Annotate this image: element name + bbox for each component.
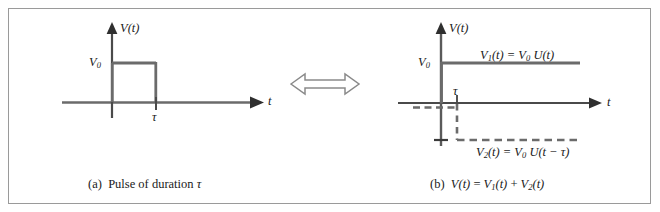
panel-a-plot <box>62 22 264 118</box>
panel-b-curve-v1-label-tail: U(t) <box>530 48 554 62</box>
panel-b-curve-v1-label: V1(t) = V0 U(t) <box>480 49 554 62</box>
panel-b-x-axis-label: t <box>607 96 610 109</box>
panel-b-curve-v1 <box>441 62 580 103</box>
panel-a-x-axis-label: t <box>268 95 271 108</box>
panel-a-amplitude-sub: 0 <box>97 60 101 70</box>
panel-b-curve-v2 <box>413 104 578 140</box>
panel-a-amplitude-label: V0 <box>89 56 101 69</box>
panel-b-tau-tick-label: τ <box>453 85 457 98</box>
double-headed-arrow-icon <box>291 74 359 94</box>
panel-a-caption-text: Pulse of duration <box>108 177 193 191</box>
panel-b-curve-v2-label-v: V <box>476 145 484 159</box>
panel-a-y-axis-arrowhead <box>107 22 118 34</box>
figure-container: V(t) t V0 τ (a) Pulse of duration τ V(t)… <box>0 0 660 212</box>
panel-b-amplitude-sub: 0 <box>426 60 430 70</box>
panel-b-curve-v2-label: V2(t) = V0 U(t − τ) <box>476 146 569 159</box>
panel-b-caption-index: (b) <box>430 177 445 191</box>
panel-b-caption-lhs: V(t) <box>451 177 470 191</box>
panel-a-x-axis <box>62 97 264 109</box>
panel-b-curve-v2-label-tail: U(t − τ) <box>526 145 569 159</box>
panel-b-amplitude-v: V <box>418 55 426 69</box>
panel-b-y-axis-arrowhead <box>436 22 447 34</box>
panel-a-caption-index: (a) <box>88 177 102 191</box>
panel-b-plot <box>398 22 602 146</box>
panel-b-y-axis-label: V(t) <box>449 22 468 35</box>
panel-a-amplitude-v: V <box>89 55 97 69</box>
panel-a-caption-tau: τ <box>197 177 201 191</box>
panel-b-x-axis-arrowhead <box>589 98 602 109</box>
panel-a-tau-tick-label: τ <box>152 111 156 124</box>
panel-a-y-axis-label: V(t) <box>120 22 139 35</box>
panel-b-amplitude-label: V0 <box>418 56 430 69</box>
panel-a-x-axis-arrowhead <box>250 97 264 109</box>
panel-b-curve-v2-label-rest: (t) = V <box>488 145 522 159</box>
panel-b-curve-v1-label-v: V <box>480 48 488 62</box>
panel-a-caption: (a) Pulse of duration τ <box>88 178 201 191</box>
panel-b-curve-v1-label-rest: (t) = V <box>492 48 526 62</box>
panel-b-caption: (b) V(t) = V1(t) + V2(t) <box>430 178 544 191</box>
